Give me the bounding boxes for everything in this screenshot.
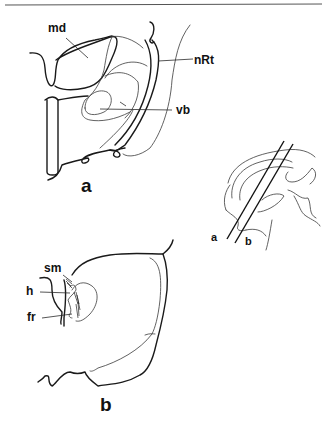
figure-canvas	[0, 0, 333, 441]
panel-b-label: b	[100, 395, 112, 414]
top-rule	[5, 4, 322, 5]
panel-a-drawing	[30, 22, 193, 180]
label-vb: vb	[176, 104, 190, 116]
inset-plane-a-label: a	[211, 232, 217, 243]
label-fr: fr	[27, 311, 36, 323]
panel-a-label: a	[81, 176, 92, 195]
label-md: md	[48, 22, 66, 34]
inset-plane-b-label: b	[245, 236, 252, 247]
label-sm: sm	[44, 262, 61, 274]
label-nRt: nRt	[194, 54, 214, 66]
label-h: h	[26, 285, 33, 297]
inset-brain-drawing	[224, 141, 320, 250]
